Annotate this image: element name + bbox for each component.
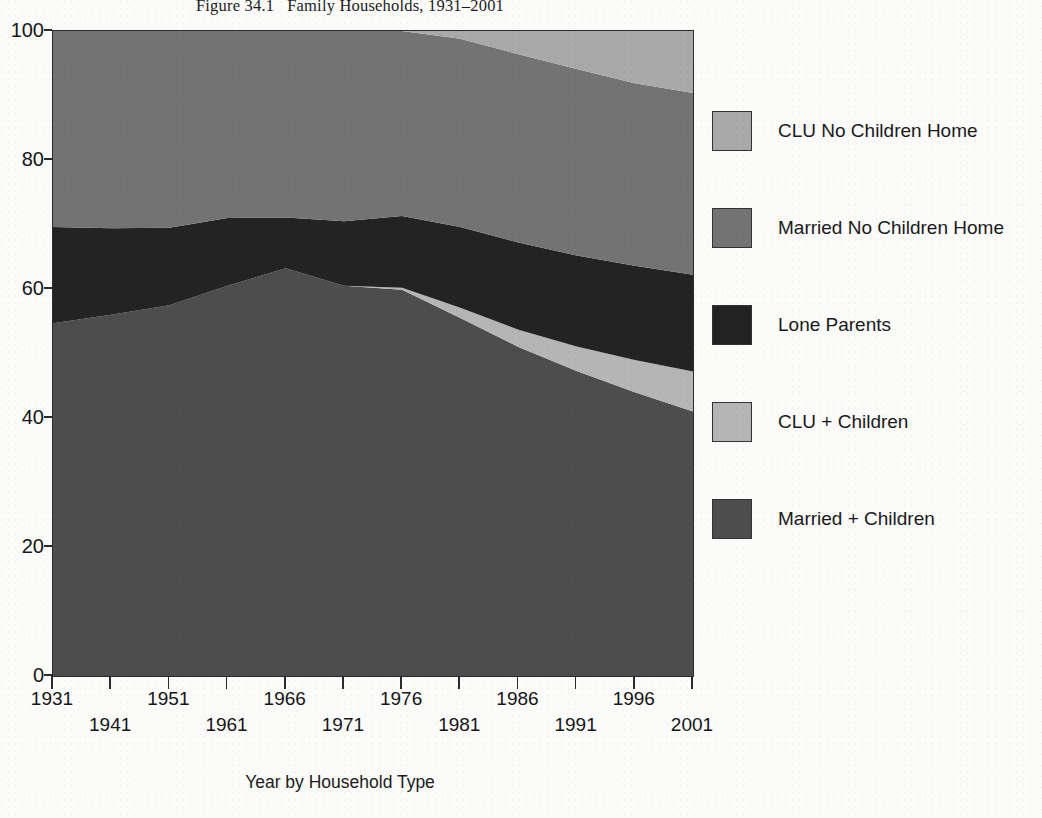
x-tick-label: 1996 xyxy=(613,688,655,710)
legend-item-label: CLU + Children xyxy=(778,411,908,433)
y-tick-label: 40 xyxy=(0,406,44,429)
legend-swatch-icon xyxy=(712,402,752,442)
figure-root: Figure 34.1 Family Households, 1931–2001… xyxy=(0,0,1042,818)
y-tick-mark xyxy=(44,158,52,160)
chart-title: Figure 34.1 Family Households, 1931–2001 xyxy=(0,0,700,16)
stacked-area-svg xyxy=(53,31,693,676)
legend-item-label: CLU No Children Home xyxy=(778,120,978,142)
y-tick-label: 100 xyxy=(0,19,44,42)
y-tick-mark xyxy=(44,545,52,547)
legend-item-label: Married No Children Home xyxy=(778,217,1004,239)
legend-item-label: Lone Parents xyxy=(778,314,891,336)
x-tick-label: 1976 xyxy=(380,688,422,710)
x-tick-label: 1941 xyxy=(89,714,131,736)
legend-swatch-icon xyxy=(712,305,752,345)
y-tick-mark xyxy=(44,287,52,289)
y-tick-label: 20 xyxy=(0,535,44,558)
plot-area xyxy=(52,30,694,677)
chart-legend: CLU No Children HomeMarried No Children … xyxy=(712,110,1032,595)
legend-item-label: Married + Children xyxy=(778,508,935,530)
legend-swatch-icon xyxy=(712,499,752,539)
y-tick-mark xyxy=(44,416,52,418)
x-tick-label: 1981 xyxy=(438,714,480,736)
x-tick-label: 1961 xyxy=(205,714,247,736)
legend-item[interactable]: Lone Parents xyxy=(712,304,1032,346)
legend-swatch-icon xyxy=(712,111,752,151)
x-tick-label: 1931 xyxy=(31,688,73,710)
x-tick-label: 1986 xyxy=(496,688,538,710)
x-tick-label: 1966 xyxy=(264,688,306,710)
legend-item[interactable]: Married No Children Home xyxy=(712,207,1032,249)
y-tick-mark xyxy=(44,29,52,31)
x-axis-title: Year by Household Type xyxy=(0,772,680,793)
legend-item[interactable]: Married + Children xyxy=(712,498,1032,540)
x-axis-labels: 1931194119511961196619711976198119861991… xyxy=(0,688,1042,758)
x-tick-label: 2001 xyxy=(671,714,713,736)
legend-swatch-icon xyxy=(712,208,752,248)
x-tick-label: 1951 xyxy=(147,688,189,710)
legend-item[interactable]: CLU No Children Home xyxy=(712,110,1032,152)
y-tick-label: 80 xyxy=(0,148,44,171)
y-tick-label: 60 xyxy=(0,277,44,300)
legend-item[interactable]: CLU + Children xyxy=(712,401,1032,443)
x-tick-label: 1971 xyxy=(322,714,364,736)
x-tick-label: 1991 xyxy=(554,714,596,736)
